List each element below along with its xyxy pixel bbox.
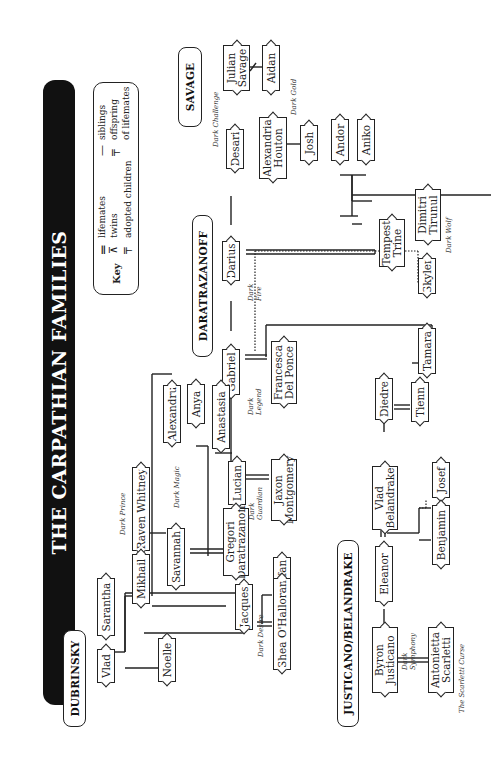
adopted-symbol-icon: ╤ (121, 247, 131, 254)
book-dark-legend: Dark Legend (247, 391, 263, 415)
person-lucian: Lucian (228, 461, 246, 505)
person-shea-ohalloran: Shea O'Halloran (273, 578, 291, 670)
book-dark-guardian: Dark Guardian (248, 488, 264, 520)
family-dubrinsky: DUBRINSKY (63, 630, 86, 727)
book-dark-desire: Dark Desire (257, 614, 265, 657)
person-eleanor: Eleanor (375, 546, 393, 602)
person-mikhail: Mikhail (132, 554, 150, 604)
person-benjamin: Benjamin (432, 505, 450, 565)
offspring-symbol-icon: ╤ (109, 149, 119, 156)
person-savannah: Savannah (167, 528, 185, 586)
person-skyler: Skyler (418, 258, 436, 294)
key-lifemates: lifemates (97, 196, 107, 238)
family-justicano-belandrake: JUSTICANO/BELANDRAKE (337, 540, 359, 727)
legend-key: Key ═ lifemates ⊼ twins ╤ adopted childr… (93, 82, 139, 295)
key-offspring: offspring (109, 99, 119, 140)
siblings-symbol-icon: — (97, 145, 107, 156)
person-alexandria-houton: Alexandria Houton (259, 117, 287, 179)
book-dark-symphony: Dark Symphony (401, 636, 417, 670)
person-francesca-del-ponce: Francesca Del Ponce (271, 341, 297, 404)
person-aniko: Aniko (357, 119, 375, 161)
family-daratrazanoff: DARATRAZANOFF (192, 215, 213, 357)
person-sarantha: Sarantha (97, 578, 115, 636)
person-jaxon-montgomery: Jaxon Montgomery (271, 459, 297, 521)
page-title: THE CARPATHIAN FAMILIES (43, 80, 75, 705)
person-vlad-belandrake: Vlad Belandrake (372, 466, 398, 530)
person-josh: Josh (300, 125, 318, 161)
book-dark-gold: Dark Gold (290, 79, 298, 115)
person-julian-savage: Julian Savage (223, 45, 250, 91)
person-noelle: Noelle (158, 638, 176, 682)
person-tempest-trine: Tempest Trine (379, 219, 405, 267)
person-byron-justicano: Byron Justicano (372, 627, 398, 693)
family-savage: SAVAGE (178, 47, 202, 127)
person-raven-whitney: Raven Whitney (132, 467, 150, 551)
person-darius: Darius (222, 241, 240, 281)
key-adopted: adopted children (123, 160, 133, 238)
key-twins: twins (109, 213, 119, 238)
person-vlad: Vlad (97, 649, 115, 683)
book-dark-fire: Dark Fire (247, 281, 263, 301)
person-diedre: Diedre (375, 378, 393, 420)
person-aidan: Aidan (262, 45, 280, 91)
person-alexandru: Alexandru (163, 385, 181, 443)
family-tree-diagram: THE CARPATHIAN FAMILIES Key ═ lifemates … (0, 0, 491, 761)
person-anya: Anya (187, 384, 205, 424)
key-offspring-cont: of lifemates (121, 87, 131, 141)
person-anastasia: Anastasia (212, 385, 230, 449)
book-dark-prince: Dark Prince (119, 493, 127, 535)
person-antonietta-scarletti: Antonietta Scarletti (428, 627, 454, 693)
book-dark-challenge: Dark Challenge (212, 92, 220, 147)
person-tienn: Tienn (411, 382, 429, 422)
person-josef: Josef (432, 462, 450, 498)
book-dark-wolf: Dark Wolf (445, 218, 453, 253)
person-tamara: Tamara (418, 328, 436, 374)
book-the-scarletti-curse: The Scarletti Curse (458, 644, 466, 713)
book-dark-magic: Dark Magic (173, 466, 181, 508)
person-andor: Andor (331, 119, 349, 161)
key-siblings: siblings (97, 105, 107, 140)
twins-symbol-icon: ⊼ (109, 246, 119, 254)
person-dimitri-tirunul: Dimitri Tirunul (415, 189, 441, 241)
person-desari: Desari (226, 129, 244, 169)
person-jacques: Jacques (235, 584, 253, 630)
key-label: Key (111, 263, 122, 284)
person-gregori-daratrazanoff: Gregori Daratrazanoff (223, 508, 249, 576)
